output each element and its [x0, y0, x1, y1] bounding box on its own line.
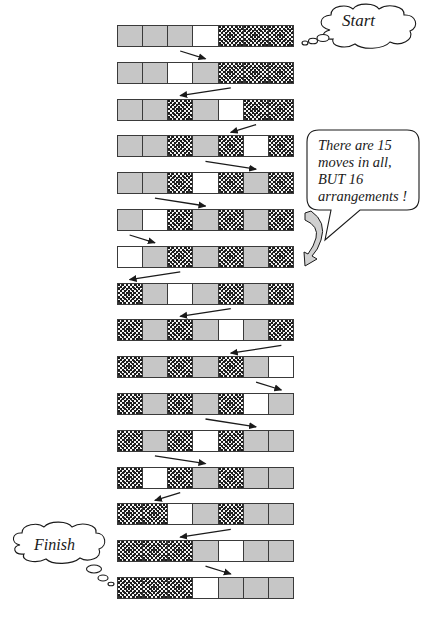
curved-arrow-icon	[304, 211, 323, 266]
move-arrow-icon	[206, 161, 257, 169]
arrows-layer	[0, 0, 431, 619]
finish-label: Finish	[34, 536, 75, 554]
move-arrow-icon	[180, 529, 231, 537]
move-arrow-icon	[206, 419, 257, 427]
callout-text: There are 15 moves in all, BUT 16 arrang…	[318, 137, 418, 205]
move-arrow-icon	[130, 235, 155, 243]
puzzle-diagram: Start Finish There are 15 moves in all, …	[0, 0, 431, 619]
move-arrow-icon	[180, 51, 205, 59]
move-arrow-icon	[180, 88, 231, 96]
move-arrows	[130, 51, 282, 574]
move-arrow-icon	[130, 272, 181, 280]
move-arrow-icon	[206, 566, 231, 574]
move-arrow-icon	[155, 456, 206, 464]
start-label: Start	[342, 11, 375, 31]
move-arrow-icon	[155, 493, 180, 501]
move-arrow-icon	[155, 198, 206, 206]
move-arrow-icon	[231, 345, 282, 353]
move-arrow-icon	[180, 309, 231, 317]
move-arrow-icon	[231, 125, 256, 133]
move-arrow-icon	[256, 382, 281, 390]
